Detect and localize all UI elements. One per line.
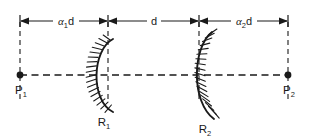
arrowhead-left-out — [20, 18, 29, 25]
mirror-two-label-base: R — [199, 123, 207, 135]
mirror-two-label: R2 — [199, 123, 211, 137]
point-p2-sub: 2 — [291, 90, 295, 99]
mirror-one-label: R1 — [98, 116, 110, 131]
arrowhead-right-in — [199, 18, 208, 25]
diagram-canvas: α1d d α2d — [0, 0, 312, 137]
mirror-one: R1 — [86, 35, 113, 131]
point-p1-label: P1 — [15, 84, 27, 99]
mirror-two-label-sub: 2 — [207, 129, 211, 138]
arrowhead-right-out — [279, 18, 288, 25]
alpha2-suffix: d — [246, 15, 252, 27]
mirror-one-label-base: R — [98, 116, 106, 128]
point-p1-sub: 1 — [23, 90, 27, 99]
point-p2-dot — [285, 72, 292, 79]
arrowhead-mid-left — [108, 18, 117, 25]
mirror-one-label-sub: 1 — [106, 122, 110, 131]
arrowhead-left-in — [99, 18, 108, 25]
dimension-label-d: d — [151, 15, 157, 27]
arrowhead-mid-right — [190, 18, 199, 25]
mirror-one-hatching — [86, 35, 111, 112]
optics-diagram: α1d d α2d — [0, 0, 312, 137]
point-p2-label: P2 — [283, 84, 295, 99]
construction-lines — [20, 22, 288, 100]
d-symbol: d — [151, 15, 157, 27]
point-p1-dot — [17, 72, 24, 79]
mirror-two: R2 — [195, 29, 219, 137]
alpha1-suffix: d — [68, 15, 74, 27]
